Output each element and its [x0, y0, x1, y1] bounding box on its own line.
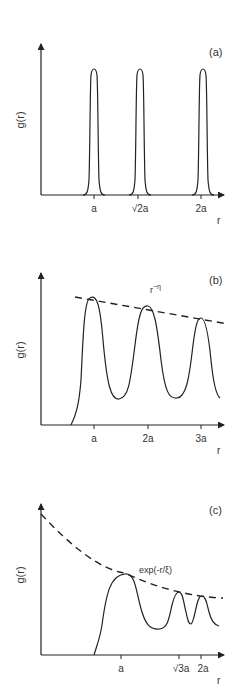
- peak-2: [129, 69, 151, 195]
- envelope-label-b: r−η: [150, 283, 161, 295]
- tick-label-2a: 2a: [197, 663, 209, 674]
- power-law-envelope: [75, 297, 228, 324]
- panel-a: (a) g(r) a √2a 2a r: [14, 44, 224, 226]
- exponential-envelope: [41, 514, 223, 598]
- x-axis-label-c: r: [217, 675, 221, 686]
- x-axis-label-b: r: [217, 445, 221, 456]
- panel-b: (b) r−η g(r) a 2a 3a r: [14, 273, 228, 456]
- tick-label-a: a: [118, 663, 124, 674]
- peak-1: [83, 69, 105, 195]
- panel-label-a: (a): [209, 46, 222, 58]
- tick-label-2a: 2a: [195, 203, 207, 214]
- peak-3: [192, 69, 214, 195]
- tick-label-3a: 3a: [195, 433, 207, 444]
- panel-label-c: (c): [209, 504, 222, 516]
- y-axis-label-a: g(r): [14, 111, 26, 128]
- tick-label-2a: 2a: [142, 433, 154, 444]
- tick-label-a: a: [91, 203, 97, 214]
- x-axis-label-a: r: [217, 215, 221, 226]
- panel-c: (c) exp(-r/ξ) g(r) a √3a 2a r: [14, 504, 224, 686]
- tick-label-sqrt2a: √2a: [132, 203, 149, 214]
- figure: (a) g(r) a √2a 2a r (b) r−η g(r) a 2a 3a…: [0, 0, 235, 699]
- y-axis-label-b: g(r): [14, 341, 26, 358]
- panel-label-b: (b): [209, 274, 222, 286]
- tick-label-a: a: [91, 433, 97, 444]
- y-axis-label-c: g(r): [14, 566, 26, 583]
- envelope-label-c: exp(-r/ξ): [139, 565, 172, 575]
- g-of-r-curve-b: [71, 297, 220, 425]
- tick-label-sqrt3a: √3a: [173, 663, 190, 674]
